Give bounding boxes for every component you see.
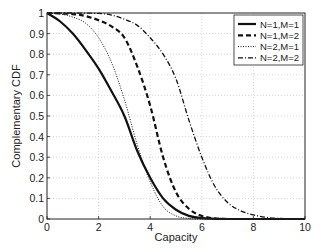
y-tick-label: 0.6 [29,89,44,101]
y-tick-label: 1 [38,7,44,19]
legend-label: N=1,M=2 [260,30,299,41]
x-tick-label: 4 [147,221,153,233]
y-tick-label: 0.3 [29,151,44,163]
ccdf-chart: 0246810 00.10.20.30.40.50.60.70.80.91 Ca… [0,0,325,252]
x-tick-label: 8 [250,221,256,233]
y-tick-label: 0.8 [29,48,44,60]
legend-label: N=2,M=2 [260,52,299,63]
y-tick-label: 0 [38,213,44,225]
y-tick-label: 0.9 [29,28,44,40]
legend-label: N=2,M=1 [260,41,299,52]
y-tick-label: 0.4 [29,131,44,143]
y-tick-label: 0.5 [29,110,44,122]
legend-label: N=1,M=1 [260,19,299,30]
x-tick-label: 6 [199,221,205,233]
x-tick-label: 0 [44,221,50,233]
x-tick-label: 2 [96,221,102,233]
x-axis-label: Capacity [155,231,198,243]
y-tick-label: 0.7 [29,69,44,81]
y-tick-label: 0.2 [29,172,44,184]
x-tick-label: 10 [299,221,311,233]
legend: N=1,M=1N=1,M=2N=2,M=1N=2,M=2 [234,15,303,65]
y-axis-label: Complementary CDF [10,64,22,168]
y-tick-label: 0.1 [29,192,44,204]
